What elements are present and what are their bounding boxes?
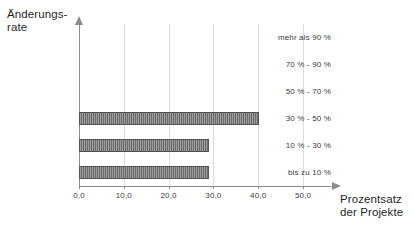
x-tick-label: 10,0 — [104, 191, 144, 200]
chart-canvas: Änderungs- rate Prozentsatz der Projekte… — [0, 0, 413, 230]
x-tick-label: 20,0 — [149, 191, 189, 200]
category-label: bis zu 10 % — [231, 168, 331, 177]
category-label: mehr als 90 % — [231, 33, 331, 42]
bar-row: 70 % - 90 % — [0, 51, 413, 78]
x-axis-title: Prozentsatz der Projekte — [340, 193, 403, 219]
x-tick-label: 50,0 — [283, 191, 323, 200]
bar-row: 10 % - 30 % — [0, 132, 413, 159]
category-label: 10 % - 30 % — [231, 141, 331, 150]
x-tick-mark — [79, 186, 80, 189]
x-tick-label: 30,0 — [193, 191, 233, 200]
x-tick-label: 0,0 — [59, 191, 99, 200]
category-label: 70 % - 90 % — [231, 60, 331, 69]
bar — [79, 166, 209, 179]
x-tick-mark — [213, 186, 214, 189]
x-tick-mark — [124, 186, 125, 189]
bar-row: bis zu 10 % — [0, 159, 413, 186]
x-tick-mark — [303, 186, 304, 189]
bar — [79, 112, 259, 125]
bar-row: 50 % - 70 % — [0, 78, 413, 105]
bar — [79, 139, 209, 152]
x-tick-mark — [258, 186, 259, 189]
x-tick-mark — [169, 186, 170, 189]
x-axis-line — [79, 186, 333, 187]
x-tick-label: 40,0 — [238, 191, 278, 200]
bar-row: mehr als 90 % — [0, 24, 413, 51]
category-label: 50 % - 70 % — [231, 87, 331, 96]
bar-row: 30 % - 50 % — [0, 105, 413, 132]
